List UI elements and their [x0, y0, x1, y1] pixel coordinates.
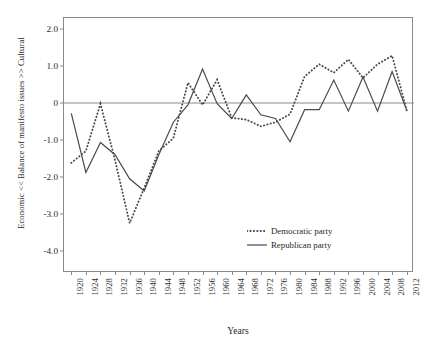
x-tick-label: 2012 [411, 278, 421, 296]
x-tick-label: 1980 [294, 278, 304, 296]
data-series-group [71, 56, 406, 223]
y-axis-title: Economic << Balance of manifesto issues … [16, 0, 26, 268]
y-tick-mark [60, 250, 64, 251]
x-tick-mark [407, 271, 408, 275]
x-tick-label: 1936 [134, 278, 144, 296]
x-tick-mark [290, 271, 291, 275]
x-tick-label: 1972 [265, 278, 275, 296]
x-tick-mark [173, 271, 174, 275]
chart-figure: Economic << Balance of manifesto issues … [0, 0, 427, 351]
x-tick-label: 1988 [323, 278, 333, 296]
x-tick-label: 1984 [309, 278, 319, 296]
series-line-2 [71, 69, 406, 191]
y-tick-label: 0 [53, 98, 58, 108]
x-tick-mark [319, 271, 320, 275]
x-tick-mark [159, 271, 160, 275]
legend-dotted-line-icon [247, 224, 267, 238]
x-tick-label: 1956 [207, 278, 217, 296]
plot-area: 2.01.00-1.0-2.0-3.0-4.0 1920192419281932… [63, 17, 413, 272]
x-tick-mark [261, 271, 262, 275]
x-tick-mark [144, 271, 145, 275]
x-tick-mark [232, 271, 233, 275]
x-tick-mark [378, 271, 379, 275]
y-tick-mark [60, 176, 64, 177]
legend-label: Republican party [271, 238, 331, 252]
series-line-1 [71, 56, 406, 223]
x-tick-label: 1920 [75, 278, 85, 296]
x-tick-mark [203, 271, 204, 275]
x-tick-label: 1964 [236, 278, 246, 296]
y-tick-label: -2.0 [43, 172, 58, 182]
y-tick-label: 1.0 [47, 61, 58, 71]
y-tick-label: -4.0 [43, 246, 58, 256]
x-tick-mark [275, 271, 276, 275]
y-tick-mark [60, 213, 64, 214]
x-tick-label: 1932 [119, 278, 129, 296]
plot-canvas [64, 18, 414, 273]
x-tick-mark [246, 271, 247, 275]
x-tick-mark [392, 271, 393, 275]
legend-item: Republican party [247, 238, 332, 252]
x-tick-label: 1940 [148, 278, 158, 296]
y-tick-label: -1.0 [43, 135, 58, 145]
x-tick-label: 1952 [192, 278, 202, 296]
x-tick-mark [305, 271, 306, 275]
x-tick-mark [348, 271, 349, 275]
x-tick-mark [188, 271, 189, 275]
x-tick-mark [71, 271, 72, 275]
legend-label: Democratic party [271, 224, 332, 238]
x-tick-mark [334, 271, 335, 275]
x-tick-label: 1948 [177, 278, 187, 296]
y-tick-label: 2.0 [47, 24, 58, 34]
x-tick-label: 1996 [352, 278, 362, 296]
x-tick-mark [130, 271, 131, 275]
x-tick-label: 2008 [396, 278, 406, 296]
x-tick-mark [217, 271, 218, 275]
x-tick-label: 1924 [90, 278, 100, 296]
x-tick-label: 1992 [338, 278, 348, 296]
x-tick-mark [115, 271, 116, 275]
chart-legend: Democratic partyRepublican party [247, 224, 332, 252]
x-tick-label: 1968 [250, 278, 260, 296]
y-tick-mark [60, 139, 64, 140]
x-tick-label: 1976 [279, 278, 289, 296]
x-tick-label: 1960 [221, 278, 231, 296]
x-tick-mark [100, 271, 101, 275]
x-tick-label: 2004 [382, 278, 392, 296]
y-tick-mark [60, 29, 64, 30]
legend-item: Democratic party [247, 224, 332, 238]
y-tick-mark [60, 66, 64, 67]
x-tick-label: 1944 [163, 278, 173, 296]
x-axis-title: Years [63, 325, 413, 336]
x-tick-label: 2000 [367, 278, 377, 296]
x-tick-label: 1928 [104, 278, 114, 296]
y-tick-label: -3.0 [43, 209, 58, 219]
legend-solid-line-icon [247, 238, 267, 252]
x-tick-mark [363, 271, 364, 275]
x-tick-mark [86, 271, 87, 275]
y-tick-mark [60, 103, 64, 104]
